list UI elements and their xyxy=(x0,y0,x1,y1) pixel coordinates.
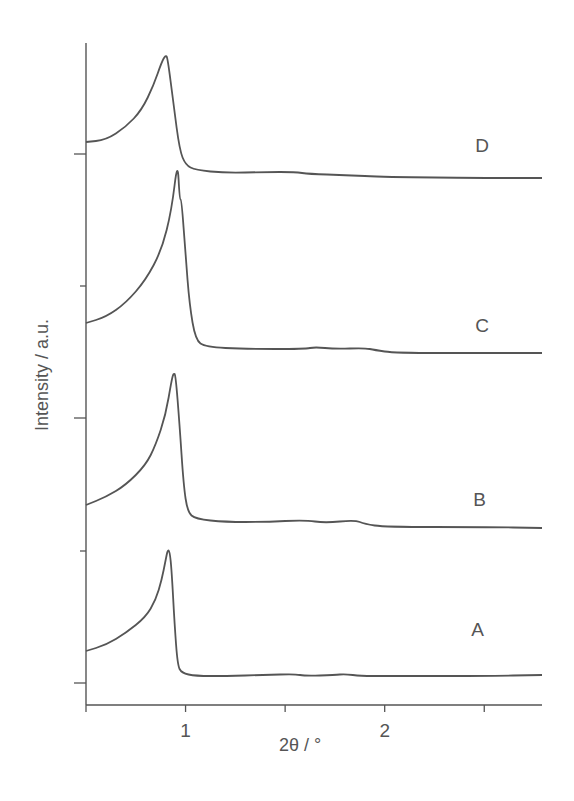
xrd-chart xyxy=(0,0,574,801)
curves xyxy=(86,56,542,676)
x-axis-label: 2θ / ° xyxy=(279,735,321,756)
series-label-a: A xyxy=(471,619,484,641)
y-axis-label: Intensity / a.u. xyxy=(32,319,53,431)
axes xyxy=(74,43,542,712)
curve-d xyxy=(86,56,542,178)
series-label-c: C xyxy=(475,315,489,337)
x-tick-label: 2 xyxy=(379,720,390,742)
x-tick-label: 1 xyxy=(180,720,191,742)
series-label-d: D xyxy=(475,135,489,157)
curve-a xyxy=(86,550,542,676)
curve-c xyxy=(86,171,542,353)
series-label-b: B xyxy=(473,489,486,511)
